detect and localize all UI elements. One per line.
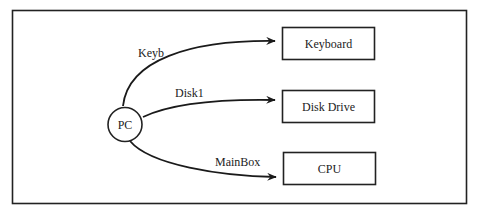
node-pc[interactable]: PC	[108, 108, 142, 142]
edge-label-mainbox: MainBox	[215, 155, 260, 169]
node-pc-label: PC	[118, 118, 133, 132]
diagram-canvas: Keyb Disk1 MainBox PC Keyboard Disk Driv…	[0, 0, 481, 213]
edge-label-keyb: Keyb	[138, 46, 164, 60]
node-disk-drive-label: Disk Drive	[302, 100, 355, 114]
edge-label-disk1: Disk1	[175, 86, 204, 100]
node-keyboard[interactable]: Keyboard	[283, 28, 375, 60]
node-keyboard-label: Keyboard	[305, 37, 352, 51]
node-cpu-label: CPU	[318, 162, 342, 176]
edge-disk1	[143, 100, 275, 117]
node-cpu[interactable]: CPU	[284, 153, 376, 185]
node-disk-drive[interactable]: Disk Drive	[283, 91, 375, 123]
